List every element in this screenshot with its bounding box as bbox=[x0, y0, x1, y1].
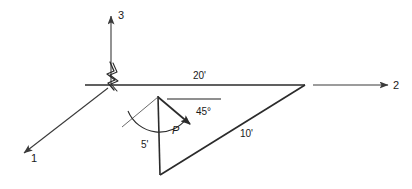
diagram-canvas: 3 2 1 bbox=[0, 0, 412, 189]
axis-1-label: 1 bbox=[31, 152, 37, 164]
member-vertical bbox=[158, 96, 160, 175]
axis-2-group: 2 bbox=[313, 79, 399, 91]
break-symbol-icon bbox=[107, 62, 118, 91]
angle-reference-oblique bbox=[122, 97, 158, 127]
dimension-label-diagonal: 10' bbox=[240, 128, 253, 139]
statics-diagram-figure: 3 2 1 bbox=[0, 0, 412, 189]
angle-label: 45° bbox=[196, 106, 211, 117]
force-arrow-icon bbox=[158, 97, 190, 124]
axis-1-line bbox=[24, 88, 108, 153]
applied-force-P: P bbox=[158, 97, 190, 136]
dimension-label-span: 20' bbox=[193, 70, 206, 81]
force-label: P bbox=[172, 124, 180, 136]
axis-1-group: 1 bbox=[24, 88, 108, 164]
axis-3-group: 3 bbox=[111, 9, 124, 84]
axis-2-label: 2 bbox=[393, 79, 399, 91]
axis-3-label: 3 bbox=[118, 9, 124, 21]
coordinate-axes: 3 2 1 bbox=[24, 9, 399, 164]
dimension-label-drop: 5' bbox=[141, 139, 149, 150]
